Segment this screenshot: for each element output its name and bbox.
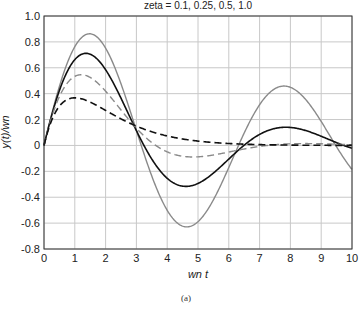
y-axis-ticks: 1.00.80.60.40.20-0.2-0.4-0.6-0.8 bbox=[21, 10, 40, 255]
y-tick-label: -0.4 bbox=[21, 191, 40, 203]
x-tick-label: 8 bbox=[287, 252, 293, 264]
x-tick-label: 6 bbox=[226, 252, 232, 264]
y-tick-label: 0.6 bbox=[25, 62, 40, 74]
x-tick-label: 7 bbox=[257, 252, 263, 264]
y-tick-label: -0.6 bbox=[21, 217, 40, 229]
impulse-response-chart: zeta = 0.1, 0.25, 0.5, 1.0 1.00.80.60.40… bbox=[0, 0, 361, 312]
x-axis-label: wn t bbox=[188, 268, 209, 280]
x-tick-label: 9 bbox=[318, 252, 324, 264]
figure-caption: (a) bbox=[181, 293, 191, 303]
x-tick-label: 0 bbox=[41, 252, 47, 264]
x-tick-label: 10 bbox=[346, 252, 358, 264]
chart-title: zeta = 0.1, 0.25, 0.5, 1.0 bbox=[144, 0, 253, 11]
x-tick-label: 2 bbox=[103, 252, 109, 264]
x-tick-label: 5 bbox=[195, 252, 201, 264]
y-tick-label: 0.8 bbox=[25, 36, 40, 48]
y-tick-label: 0 bbox=[34, 139, 40, 151]
x-axis-ticks: 012345678910 bbox=[41, 252, 358, 264]
y-tick-label: 0.4 bbox=[25, 88, 40, 100]
x-tick-label: 3 bbox=[133, 252, 139, 264]
y-tick-label: -0.2 bbox=[21, 165, 40, 177]
y-axis-label: y(t)/wn bbox=[0, 116, 11, 150]
y-tick-label: 1.0 bbox=[25, 10, 40, 22]
x-tick-label: 1 bbox=[72, 252, 78, 264]
y-tick-label: 0.2 bbox=[25, 114, 40, 126]
y-tick-label: -0.8 bbox=[21, 243, 40, 255]
x-tick-label: 4 bbox=[164, 252, 170, 264]
grid-lines bbox=[44, 16, 352, 249]
